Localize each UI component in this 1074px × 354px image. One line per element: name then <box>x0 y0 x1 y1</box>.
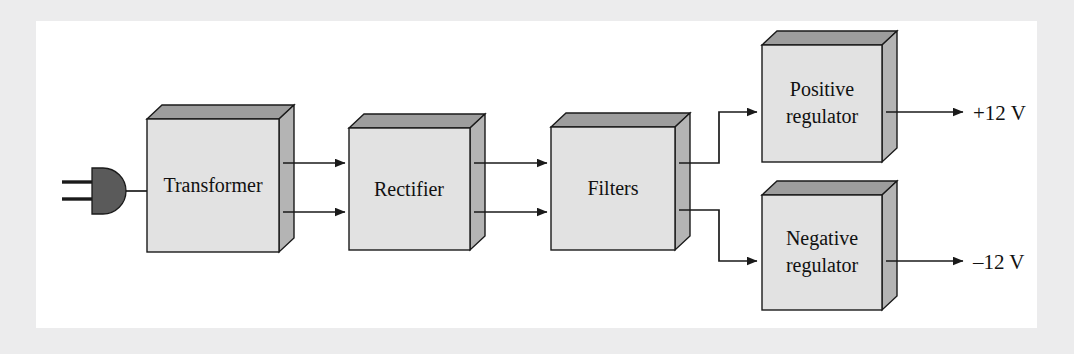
block-label-negative-regulator-line2: regulator <box>786 254 859 277</box>
block-label-negative-regulator-line1: Negative <box>786 227 858 250</box>
block-label-positive-regulator-line2: regulator <box>786 105 859 128</box>
figure-canvas: Transformer Rectifier Filters <box>0 0 1074 354</box>
block-label-filters: Filters <box>587 177 638 199</box>
block-label-rectifier: Rectifier <box>374 178 444 200</box>
power-plug-icon <box>62 168 147 214</box>
output-label-positive: +12 V <box>973 101 1026 125</box>
block-diagram: Transformer Rectifier Filters <box>0 0 1074 354</box>
block-rectifier[interactable]: Rectifier <box>349 114 485 250</box>
block-label-positive-regulator-line1: Positive <box>790 78 855 100</box>
block-positive-regulator[interactable]: Positive regulator <box>762 31 897 162</box>
block-transformer[interactable]: Transformer <box>147 105 294 252</box>
block-negative-regulator[interactable]: Negative regulator <box>762 181 897 310</box>
block-label-transformer: Transformer <box>163 174 263 196</box>
output-label-negative: –12 V <box>972 250 1025 274</box>
block-filters[interactable]: Filters <box>551 113 690 250</box>
